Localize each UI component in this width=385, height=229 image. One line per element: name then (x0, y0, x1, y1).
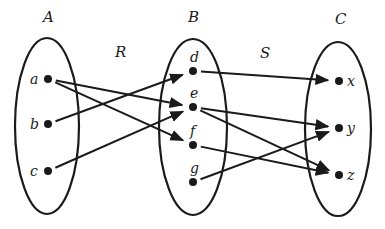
element-b-label: b (30, 116, 39, 132)
element-a-label: a (30, 71, 38, 87)
element-f-dot (189, 141, 197, 149)
element-y-label: y (346, 120, 356, 136)
element-d-label: d (190, 49, 199, 65)
arrow-a-to-f (55, 82, 183, 140)
set-a-label: A (41, 8, 54, 26)
relation-s-label: S (260, 44, 270, 62)
arrow-f-to-z (201, 147, 328, 173)
element-x-dot (335, 77, 343, 85)
element-d-dot (189, 67, 197, 75)
element-x-label: x (347, 73, 355, 89)
element-z-label: z (346, 167, 355, 183)
element-e-dot (189, 103, 197, 111)
arrow-e-to-y (201, 108, 328, 126)
relation-composition-diagram: AabcBdefgCxyzRS (0, 0, 385, 229)
element-z-dot (335, 171, 343, 179)
element-c-label: c (30, 163, 38, 179)
element-y-dot (335, 124, 343, 132)
element-e-label: e (190, 85, 198, 101)
relation-r-label: R (114, 43, 126, 61)
set-b-label: B (187, 8, 199, 26)
element-g-label: g (190, 160, 199, 176)
set-c-label: C (335, 10, 347, 28)
element-g-dot (189, 178, 197, 186)
element-c-dot (44, 167, 52, 175)
arrow-c-to-e (55, 111, 183, 167)
arrow-e-to-z (200, 110, 329, 170)
element-a-dot (44, 75, 52, 83)
element-f-label: f (189, 123, 198, 139)
element-b-dot (44, 120, 52, 128)
